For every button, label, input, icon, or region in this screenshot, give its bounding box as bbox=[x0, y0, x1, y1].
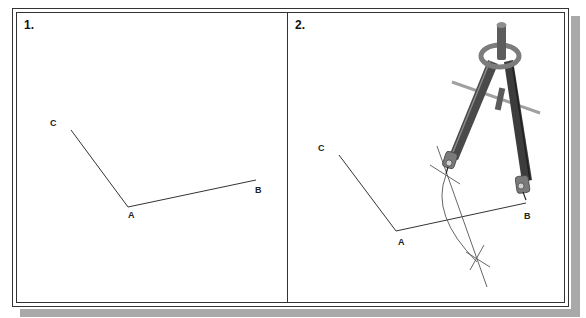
construction-marks bbox=[430, 146, 490, 287]
segment-ac-2 bbox=[339, 155, 396, 231]
construction-arc bbox=[442, 175, 477, 262]
diagram-drawing bbox=[0, 0, 586, 318]
segment-ab-1 bbox=[128, 180, 256, 207]
compass-handle bbox=[497, 24, 506, 60]
compass-cap bbox=[497, 22, 507, 28]
compass-pencil-tip bbox=[523, 192, 526, 200]
lower-cross-mark-1 bbox=[466, 252, 490, 267]
compass-icon bbox=[442, 22, 540, 200]
segment-ac-1 bbox=[71, 130, 128, 207]
perpendicular-bisector bbox=[437, 146, 487, 287]
panel-1-angle bbox=[71, 130, 256, 207]
segment-ab-2 bbox=[396, 203, 526, 231]
